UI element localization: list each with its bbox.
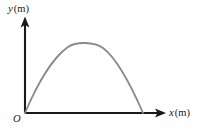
origin-label: O: [13, 114, 21, 125]
x-axis-unit: (m): [175, 107, 190, 118]
y-axis-label: y (m): [8, 3, 29, 15]
projectile-path-curve: [25, 43, 143, 113]
x-axis-label: x (m): [169, 107, 190, 119]
y-axis-unit: (m): [14, 3, 29, 14]
projectile-trajectory-figure: y (m) x (m) O: [0, 0, 199, 131]
